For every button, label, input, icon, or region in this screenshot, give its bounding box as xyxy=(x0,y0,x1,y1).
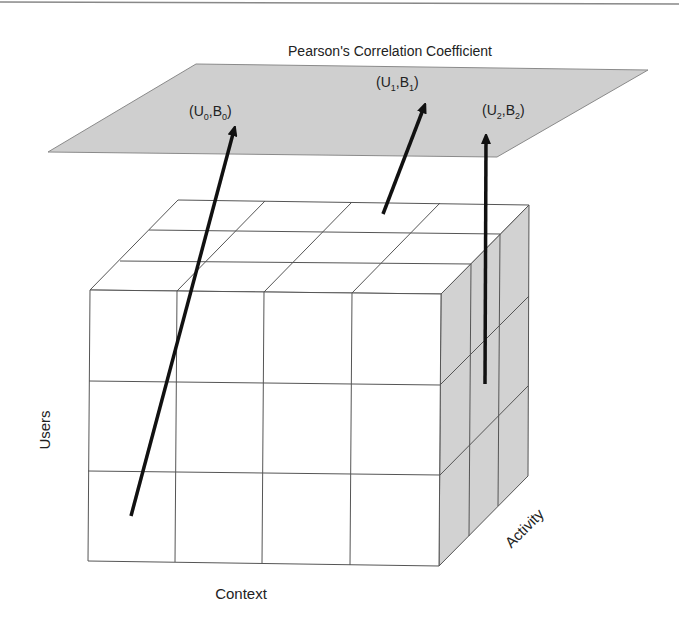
arrow-to-u2-b2 xyxy=(485,138,486,384)
plane-title: Pearson's Correlation Coefficient xyxy=(288,43,492,59)
cube-front-face xyxy=(88,290,441,566)
top-border xyxy=(0,2,679,4)
plane-surface xyxy=(48,64,648,157)
correlation-plane: Pearson's Correlation Coefficient (U0,B0… xyxy=(48,43,648,157)
axis-label-context: Context xyxy=(215,585,268,602)
data-cube xyxy=(88,200,529,566)
pearson-cube-diagram: Pearson's Correlation Coefficient (U0,B0… xyxy=(0,0,679,632)
axis-label-activity: Activity xyxy=(501,505,547,551)
axis-label-users: Users xyxy=(36,410,53,449)
